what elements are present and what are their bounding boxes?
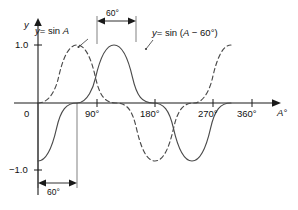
- dim-bottom-arrow-left: [38, 180, 46, 187]
- leader-dot-sin-A: [77, 46, 79, 48]
- construction-guides: [38, 16, 136, 188]
- x-axis-arrowhead: [272, 99, 281, 107]
- series-b-eq: = sin (: [157, 27, 183, 38]
- x-tick-label-360: 360°: [237, 109, 257, 119]
- y-tick-label-negative: −1.0: [9, 165, 28, 175]
- axes: [14, 18, 281, 195]
- y-axis-label: y: [24, 20, 29, 30]
- sine-phase-shift-chart: y A° 1.0 −1.0 0 90° 180° 270° 360° y= si…: [0, 0, 298, 210]
- series-label-sin-A-minus-60: y= sin (A − 60°): [152, 28, 218, 38]
- dimension-label-bottom: 60°: [47, 188, 60, 197]
- series-a-var: A: [63, 25, 69, 36]
- dimension-label-top: 60°: [106, 9, 119, 18]
- dim-top-arrow-right: [128, 18, 136, 25]
- leader-sin-A: [79, 39, 89, 47]
- x-axis-label: A°: [277, 108, 287, 118]
- dim-top-arrow-left: [97, 18, 105, 25]
- series-b-suffix: − 60°): [189, 27, 217, 38]
- annotation-bottom-60: [38, 180, 77, 187]
- series-a-eq: = sin: [40, 25, 63, 36]
- annotation-top-60: [97, 18, 136, 25]
- y-tick-label-positive: 1.0: [15, 40, 28, 50]
- leader-dot-sin-A-minus-60: [145, 48, 147, 50]
- x-tick-label-90: 90°: [85, 109, 99, 119]
- origin-label: 0: [24, 109, 29, 119]
- leader-sin-A-minus-60: [146, 40, 153, 49]
- x-tick-label-270: 270°: [198, 109, 218, 119]
- dim-bottom-arrow-right: [69, 180, 77, 187]
- series-label-sin-A: y= sin A: [35, 26, 69, 36]
- x-tick-label-180: 180°: [140, 109, 160, 119]
